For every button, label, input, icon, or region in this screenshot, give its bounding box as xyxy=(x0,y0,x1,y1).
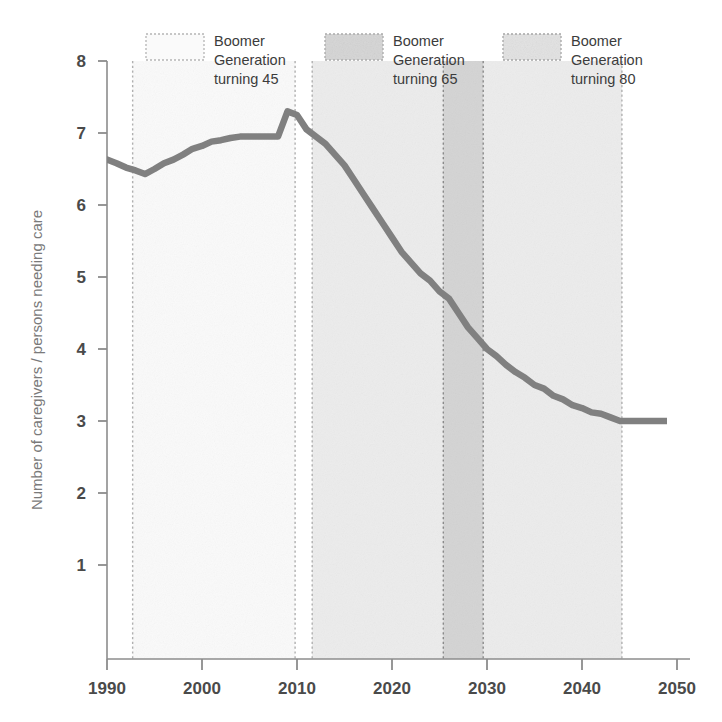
y-tick-label: 2 xyxy=(77,484,86,503)
y-tick-label: 6 xyxy=(77,196,86,215)
legend-label-line: turning 45 xyxy=(214,71,279,87)
legend-label-line: turning 65 xyxy=(393,71,458,87)
legend-swatch xyxy=(146,34,204,60)
x-tick-label: 1990 xyxy=(88,679,126,698)
legend-label-line: Boomer xyxy=(571,33,622,49)
x-tick-label: 2040 xyxy=(563,679,601,698)
y-tick-label: 7 xyxy=(77,124,86,143)
legend-label-line: Boomer xyxy=(214,33,265,49)
chart-figure: 12345678 1990200020102020203020402050 Nu… xyxy=(0,0,722,722)
legend-label-line: Boomer xyxy=(393,33,444,49)
x-tick-label: 2000 xyxy=(183,679,221,698)
x-tick-label: 2010 xyxy=(278,679,316,698)
x-tick-label: 2030 xyxy=(468,679,506,698)
y-axis-title: Number of caregivers / persons needing c… xyxy=(28,210,45,510)
generation-bands-texture xyxy=(133,61,622,659)
x-tick-label: 2020 xyxy=(373,679,411,698)
legend-label-line: Generation xyxy=(393,52,465,68)
x-tick-label: 2050 xyxy=(658,679,696,698)
caregiver-ratio-line-chart: 12345678 1990200020102020203020402050 Nu… xyxy=(0,0,722,722)
y-tick-label: 8 xyxy=(77,52,86,71)
y-tick-label: 5 xyxy=(77,268,86,287)
legend-label-line: turning 80 xyxy=(571,71,636,87)
y-tick-label: 4 xyxy=(77,340,87,359)
y-tick-label: 1 xyxy=(77,556,86,575)
legend-label-line: Generation xyxy=(571,52,643,68)
legend-label-line: Generation xyxy=(214,52,286,68)
y-tick-label: 3 xyxy=(77,412,86,431)
